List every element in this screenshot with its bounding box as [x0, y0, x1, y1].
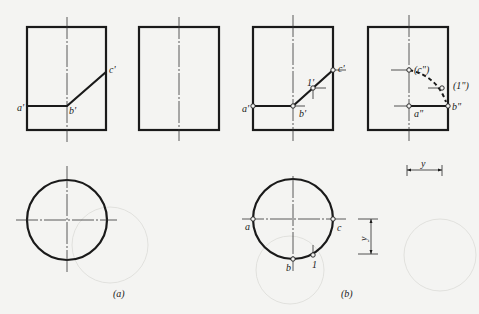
- front-view-outline: [27, 27, 106, 130]
- dimension-label-y: y: [358, 236, 369, 242]
- panel-b-side-view: (c") (1") a" b" y: [368, 15, 470, 176]
- side-view-outline: [368, 27, 448, 130]
- label-b-double-prime: b": [452, 101, 462, 112]
- point-b-double-prime: [446, 104, 450, 108]
- point-c: [331, 217, 335, 221]
- panel-b-front-view: a' b' 1' c': [242, 15, 346, 141]
- label-1: 1: [312, 259, 317, 270]
- dimension-label-y: y: [420, 158, 426, 169]
- label-1-prime: 1': [307, 77, 315, 88]
- panel-b: a' b' 1' c' (c") (1") a" b": [242, 15, 470, 300]
- label-c: c: [337, 222, 342, 233]
- point-1: [311, 253, 315, 257]
- label-1-double-prime: (1"): [453, 80, 470, 92]
- point-b-prime: [291, 104, 295, 108]
- dimension-y-horizontal: y: [407, 158, 442, 176]
- panel-a: a' b' c' (a): [16, 17, 219, 300]
- label-a-double-prime: a": [414, 108, 424, 119]
- label-c-prime: c': [338, 63, 345, 74]
- label-a-prime: a': [242, 103, 250, 114]
- background-ghost-marks: [72, 207, 476, 304]
- label-a-prime: a': [17, 102, 25, 113]
- point-1-double-prime: [440, 86, 444, 90]
- label-b: b: [286, 262, 291, 273]
- point-c-double-prime: [407, 68, 411, 72]
- point-a-prime: [251, 104, 255, 108]
- label-c-prime: c': [109, 64, 116, 75]
- point-b: [291, 257, 295, 261]
- dimension-y-vertical: y: [358, 219, 378, 254]
- panel-a-side-view: [139, 17, 219, 141]
- panel-a-top-view: [16, 166, 117, 272]
- panel-a-front-view: a' b' c': [17, 17, 116, 142]
- point-a-double-prime: [407, 104, 411, 108]
- point-c-prime: [331, 68, 335, 72]
- point-a: [251, 217, 255, 221]
- label-c-double-prime: (c"): [414, 64, 430, 76]
- projection-drawing: a' b' c' (a): [0, 0, 479, 314]
- caption-a: (a): [113, 288, 125, 300]
- label-b-prime: b': [299, 108, 307, 119]
- cut-line: [27, 72, 106, 106]
- panel-b-top-view: a c b 1 y: [242, 176, 378, 273]
- caption-b: (b): [341, 288, 353, 300]
- label-a: a: [245, 221, 250, 232]
- label-b-prime: b': [69, 105, 77, 116]
